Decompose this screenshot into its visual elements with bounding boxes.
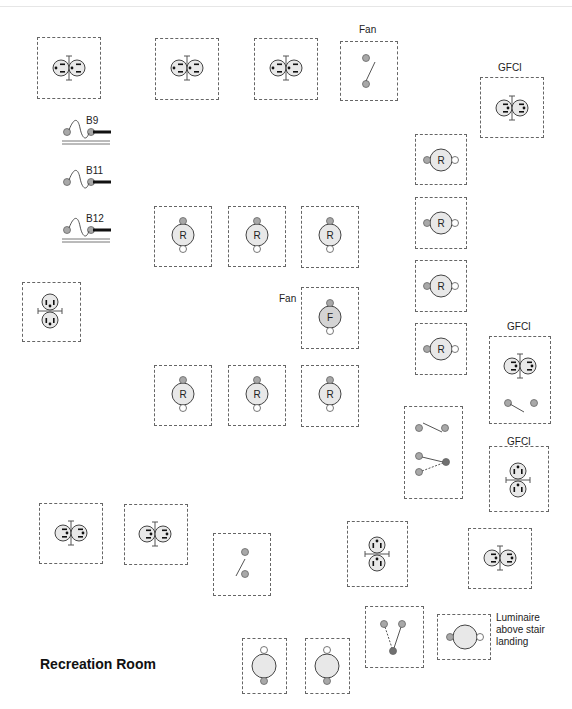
floor-plan-canvas: Recreation Room FanGFCIFanGFCIGFCILumina… [0,0,572,709]
circuit-label-b12: B12 [86,213,104,224]
circuit-b12-icon [0,0,572,709]
